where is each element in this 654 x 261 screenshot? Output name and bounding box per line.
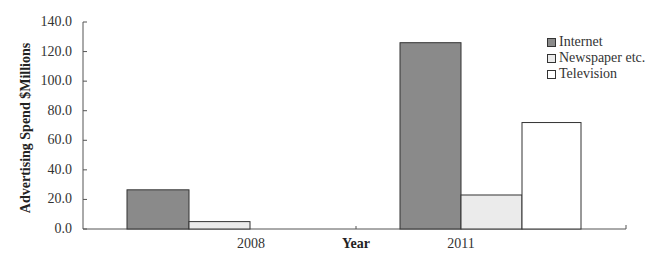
y-tick-label: 40.0	[2, 163, 72, 177]
legend-item-internet: Internet	[547, 34, 645, 50]
legend-swatch-newspaper	[547, 54, 556, 63]
legend-item-television: Television	[547, 66, 645, 82]
legend: Internet Newspaper etc. Television	[547, 34, 645, 82]
legend-swatch-internet	[547, 38, 556, 47]
legend-item-newspaper: Newspaper etc.	[547, 50, 645, 66]
y-tick-label: 100.0	[2, 74, 72, 88]
legend-label: Newspaper etc.	[559, 50, 645, 66]
bar-television-2011	[522, 123, 581, 229]
y-tick-label: 20.0	[2, 192, 72, 206]
legend-label: Television	[559, 66, 617, 82]
bar-newspaper-etc-2008	[189, 222, 250, 229]
bar-internet-2011	[400, 43, 461, 229]
bar-newspaper-etc-2011	[461, 195, 522, 229]
y-tick-label: 0.0	[2, 222, 72, 236]
legend-swatch-television	[547, 70, 556, 79]
y-axis-label: Advertising Spend $Millions	[18, 43, 34, 213]
y-tick-label: 140.0	[2, 15, 72, 29]
y-tick-label: 80.0	[2, 104, 72, 118]
bar-internet-2008	[127, 190, 189, 229]
x-tick-label: 2011	[447, 236, 474, 252]
y-tick-label: 60.0	[2, 133, 72, 147]
x-axis-label: Year	[342, 236, 370, 252]
y-tick-label: 120.0	[2, 45, 72, 59]
x-tick-label: 2008	[237, 236, 265, 252]
legend-label: Internet	[559, 34, 603, 50]
bar-chart: 0.020.040.060.080.0100.0120.0140.0 Adver…	[0, 0, 654, 261]
